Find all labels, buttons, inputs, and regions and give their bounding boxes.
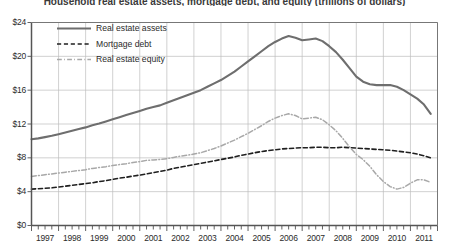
y-axis-tick-label: $4	[0, 186, 26, 196]
y-axis-tick-label: $12	[0, 119, 26, 129]
x-axis-tick-label: 2011	[407, 233, 441, 243]
y-axis-tick-label: $16	[0, 85, 26, 95]
y-axis-tick-label: $0	[0, 220, 26, 230]
plot-area	[0, 0, 449, 249]
legend-label-mortgage-debt: Mortgage debt	[96, 39, 151, 49]
gridlines	[32, 23, 438, 226]
data-series-layer	[32, 36, 431, 189]
legend-label-real-estate-equity: Real estate equity	[96, 54, 165, 64]
y-axis-tick-label: $8	[0, 152, 26, 162]
y-axis-tick-label: $20	[0, 51, 26, 61]
real-estate-line-chart: Household real estate assets, mortgage d…	[0, 0, 449, 249]
legend-label-real-estate-assets: Real estate assets	[96, 23, 167, 33]
y-axis-tick-label: $24	[0, 17, 26, 27]
